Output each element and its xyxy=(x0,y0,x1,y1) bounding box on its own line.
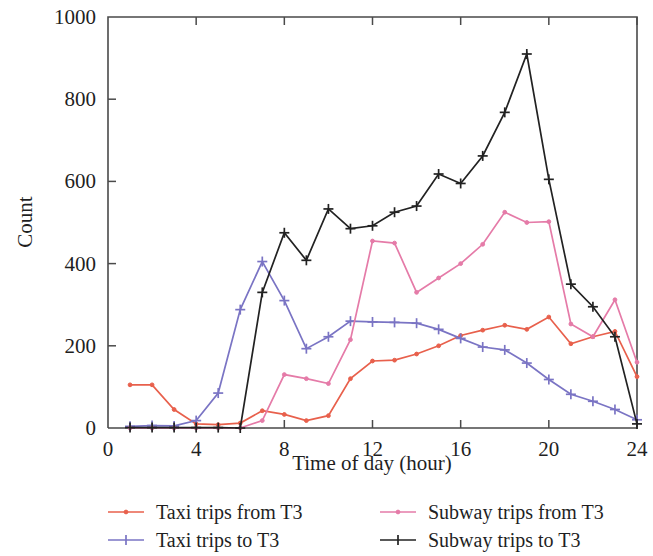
marker-dot xyxy=(304,419,308,423)
marker-dot xyxy=(415,352,419,356)
series-line xyxy=(130,54,637,428)
marker-dot xyxy=(393,241,397,245)
legend-entry: Subway trips to T3 xyxy=(380,529,580,552)
marker-dot xyxy=(569,322,573,326)
x-tick-label: 20 xyxy=(538,437,559,461)
marker-dot xyxy=(260,419,264,423)
series-line xyxy=(130,262,637,427)
marker-dot xyxy=(327,382,331,386)
chart-series xyxy=(125,49,642,433)
y-tick-label: 1000 xyxy=(54,5,96,29)
x-tick-label: 0 xyxy=(103,437,114,461)
marker-dot xyxy=(150,383,154,387)
marker-dot xyxy=(415,290,419,294)
marker-dot xyxy=(481,242,485,246)
marker-dot xyxy=(547,315,551,319)
line-chart: 02004006008001000 04812162024 Time of da… xyxy=(0,0,653,556)
y-tick-label: 200 xyxy=(65,334,97,358)
legend-marker-dot xyxy=(396,510,400,514)
x-axis-title: Time of day (hour) xyxy=(292,451,452,475)
marker-dot xyxy=(282,373,286,377)
marker-dot xyxy=(260,409,264,413)
marker-dot xyxy=(635,375,639,379)
legend-entry: Taxi trips from T3 xyxy=(108,501,303,524)
marker-dot xyxy=(437,344,441,348)
marker-dot xyxy=(437,276,441,280)
series-3 xyxy=(125,49,642,433)
marker-dot xyxy=(349,338,353,342)
x-tick-label: 24 xyxy=(627,437,649,461)
marker-dot xyxy=(547,220,551,224)
y-tick-label: 600 xyxy=(65,169,97,193)
marker-dot xyxy=(635,360,639,364)
marker-dot xyxy=(459,262,463,266)
marker-dot xyxy=(613,298,617,302)
marker-dot xyxy=(481,328,485,332)
marker-dot xyxy=(128,383,132,387)
x-tick-label: 4 xyxy=(191,437,202,461)
legend-entry: Taxi trips to T3 xyxy=(108,529,279,552)
chart-legend: Taxi trips from T3Subway trips from T3Ta… xyxy=(108,501,604,552)
legend-label: Taxi trips from T3 xyxy=(156,501,303,524)
y-tick-label: 800 xyxy=(65,87,97,111)
marker-dot xyxy=(591,335,595,339)
marker-dot xyxy=(371,359,375,363)
x-tick-label: 8 xyxy=(279,437,290,461)
y-tick-label: 0 xyxy=(86,416,97,440)
marker-dot xyxy=(371,239,375,243)
marker-dot xyxy=(503,323,507,327)
marker-dot xyxy=(569,342,573,346)
marker-dot xyxy=(525,221,529,225)
marker-dot xyxy=(503,210,507,214)
marker-dot xyxy=(349,377,353,381)
series-line xyxy=(130,212,637,428)
x-tick-label: 16 xyxy=(450,437,471,461)
marker-dot xyxy=(393,358,397,362)
marker-dot xyxy=(172,408,176,412)
marker-dot xyxy=(327,414,331,418)
y-tick-label: 400 xyxy=(65,252,97,276)
legend-entry: Subway trips from T3 xyxy=(380,501,604,524)
marker-dot xyxy=(282,413,286,417)
legend-label: Subway trips to T3 xyxy=(428,529,580,552)
marker-dot xyxy=(525,327,529,331)
y-axis-ticks: 02004006008001000 xyxy=(54,5,116,440)
chart-figure: 02004006008001000 04812162024 Time of da… xyxy=(0,0,653,556)
legend-label: Taxi trips to T3 xyxy=(156,529,279,552)
marker-dot xyxy=(304,377,308,381)
series-1 xyxy=(125,257,642,432)
legend-marker-dot xyxy=(124,510,128,514)
legend-label: Subway trips from T3 xyxy=(428,501,604,524)
y-axis-title: Count xyxy=(13,196,37,248)
